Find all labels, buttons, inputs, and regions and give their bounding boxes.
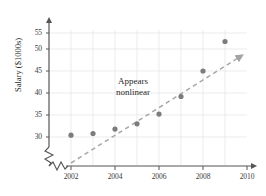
data-point bbox=[68, 133, 73, 138]
annotation-line-1: Appears bbox=[96, 76, 170, 87]
chart-annotation: Appears nonlinear bbox=[96, 76, 170, 98]
data-point bbox=[178, 94, 183, 99]
data-point bbox=[200, 68, 205, 73]
annotation-line-2: nonlinear bbox=[96, 87, 170, 98]
y-tick-label-45: 45 bbox=[24, 66, 42, 75]
data-point bbox=[90, 131, 95, 136]
y-tick-label-55: 55 bbox=[24, 28, 42, 37]
y-axis-label: Salary ($1000s) bbox=[13, 10, 23, 120]
data-point bbox=[112, 127, 117, 132]
y-tick-label-50: 50 bbox=[24, 44, 42, 53]
x-tick-label-2010: 2010 bbox=[232, 172, 262, 181]
data-point bbox=[134, 121, 139, 126]
scatter-chart: 30 35 40 45 50 55 2002 2004 2006 2008 20… bbox=[0, 0, 266, 196]
x-tick-label-2006: 2006 bbox=[144, 172, 174, 181]
x-tick-label-2008: 2008 bbox=[188, 172, 218, 181]
data-point bbox=[222, 39, 227, 44]
data-point bbox=[156, 112, 161, 117]
x-tick-label-2002: 2002 bbox=[56, 172, 86, 181]
y-tick-label-40: 40 bbox=[24, 88, 42, 97]
y-tick-label-30: 30 bbox=[24, 132, 42, 141]
x-axis-break-icon bbox=[49, 162, 68, 170]
x-tick-label-2004: 2004 bbox=[100, 172, 130, 181]
trendline-dashed bbox=[71, 58, 238, 163]
y-tick-label-35: 35 bbox=[24, 110, 42, 119]
